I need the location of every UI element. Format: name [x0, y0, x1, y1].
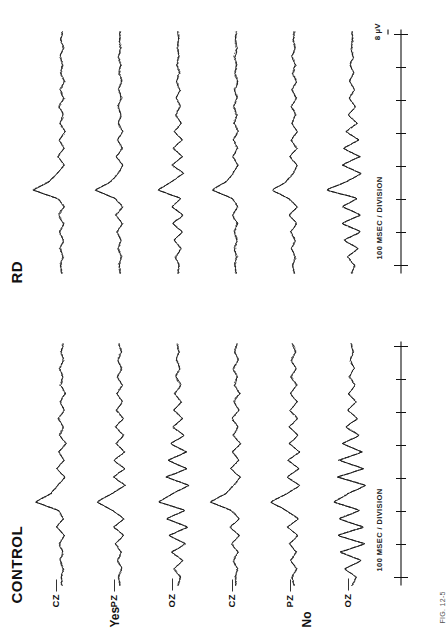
- waveform-trace: [96, 31, 124, 273]
- waveform-trace: [95, 31, 122, 273]
- axis-control: 100 MSEC / DIVISION: [386, 337, 430, 589]
- figure-caption: FIG. 12-5: [439, 591, 446, 623]
- axis-rd: 100 MSEC / DIVISION 8 µV: [386, 25, 430, 277]
- waveform-svg-control: [28, 337, 400, 589]
- axis-time-label-rd: 100 MSEC / DIVISION: [375, 176, 384, 259]
- waveform-trace: [98, 343, 126, 585]
- waveform-trace: [214, 31, 239, 273]
- waveform-trace: [213, 31, 238, 273]
- axis-svg-rd: [386, 25, 416, 277]
- group-label-no: No: [300, 611, 314, 627]
- waveform-trace: [159, 343, 189, 585]
- waveform-trace: [213, 31, 239, 273]
- waveform-trace: [97, 343, 126, 585]
- waveform-trace: [159, 343, 189, 585]
- panel-title-control: CONTROL: [8, 525, 25, 603]
- group-label-yes: Yes: [108, 606, 122, 627]
- waveform-trace: [34, 31, 65, 273]
- waveform-trace: [210, 343, 241, 585]
- waveform-traces-control: [28, 337, 388, 589]
- waveform-traces-rd: [28, 25, 388, 277]
- axis-amplitude-label-rd: 8 µV: [373, 23, 382, 40]
- waveform-trace: [271, 343, 300, 585]
- waveform-trace: [34, 31, 65, 273]
- waveform-trace: [159, 31, 184, 273]
- waveform-trace: [158, 31, 183, 273]
- panel-title-rd: RD: [8, 260, 25, 283]
- waveform-trace: [159, 31, 184, 273]
- waveform-trace: [327, 31, 360, 273]
- waveform-trace: [159, 343, 189, 585]
- panel-rd: RD 100 MSEC / DIVISION 8 µV: [0, 13, 444, 313]
- waveform-trace: [327, 31, 361, 273]
- axis-svg-control: [386, 337, 416, 589]
- axis-time-label-control: 100 MSEC / DIVISION: [375, 488, 384, 571]
- waveform-trace: [271, 343, 300, 585]
- waveform-svg-rd: [28, 25, 400, 277]
- waveform-trace: [271, 343, 300, 585]
- waveform-trace: [328, 31, 360, 273]
- panel-control: CONTROL Yes No CZ PZ OZ CZ PZ OZ 100 MSE…: [0, 325, 444, 625]
- waveform-trace: [98, 343, 125, 585]
